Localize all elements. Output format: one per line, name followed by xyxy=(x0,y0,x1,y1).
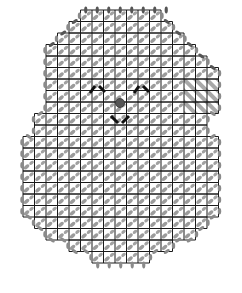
nose-icon xyxy=(116,99,125,108)
edge-stitches xyxy=(20,7,221,269)
stitch-chart xyxy=(0,0,242,293)
hatched-region xyxy=(184,79,219,114)
